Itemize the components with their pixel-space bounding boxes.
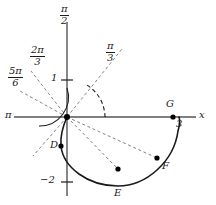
label-pi-over-3: π 3: [106, 41, 115, 63]
figure-canvas: [0, 0, 216, 205]
label-point-D: D: [50, 140, 58, 150]
label-point-E: E: [114, 188, 121, 198]
ray-two-pi-over-3: [31, 71, 67, 117]
label-tick-one: 1: [51, 73, 57, 83]
point-E-marker: [115, 166, 120, 171]
label-point-G: G: [166, 99, 174, 109]
label-pi-over-2: π 2: [60, 4, 69, 26]
label-two-pi-over-3: 2π 3: [30, 45, 45, 67]
label-tick-minus-two: −2: [40, 175, 55, 185]
origin-marker: [64, 114, 70, 120]
chord-origin-to-E: [67, 117, 118, 169]
chord-origin-to-F: [67, 117, 157, 158]
label-pi: π: [5, 110, 12, 120]
label-point-F: F: [162, 161, 169, 171]
point-D-marker: [58, 143, 63, 148]
label-five-pi-over-6: 5π 6: [8, 66, 23, 88]
solid-angle-arc: [39, 88, 68, 126]
label-tick-three: 3: [176, 119, 182, 129]
polar-curve: [61, 117, 180, 186]
ray-five-pi-over-6: [20, 91, 67, 117]
polar-curve-figure: π 2 2π 3 5π 6 π 3 1 −2 π x 3: [0, 0, 216, 205]
point-G-marker: [170, 114, 175, 119]
point-F-marker: [154, 155, 159, 160]
label-x-axis: x: [199, 110, 205, 120]
dashed-angle-arc: [85, 84, 105, 117]
